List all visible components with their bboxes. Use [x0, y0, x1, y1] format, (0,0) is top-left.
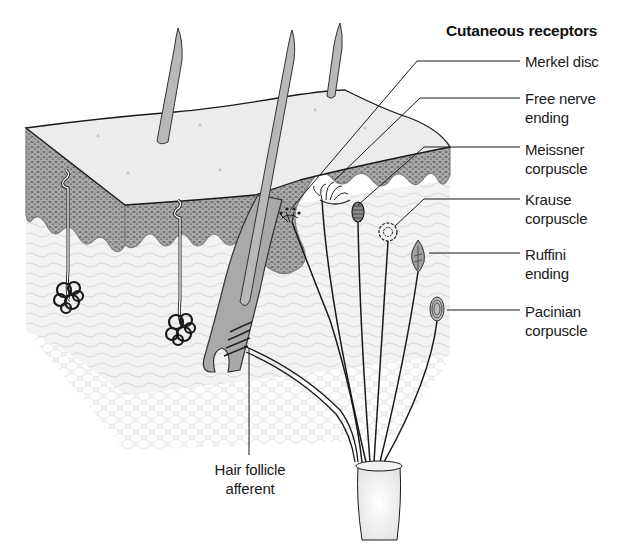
label-free-nerve-line2: ending — [525, 108, 596, 127]
krause-corpuscle — [379, 223, 397, 241]
nerve-bundle — [356, 461, 402, 540]
label-hair-follicle-line2: afferent — [206, 479, 294, 498]
label-meissner-line2: corpuscle — [525, 159, 587, 178]
label-merkel-disc: Merkel disc — [525, 52, 599, 71]
skin-receptor-diagram: Cutaneous receptors Merkel disc Free ner… — [0, 0, 633, 560]
pacinian-corpuscle — [430, 297, 444, 321]
label-krause-line1: Krause — [525, 190, 587, 209]
label-free-nerve-ending: Free nerve ending — [525, 89, 596, 127]
figure-title: Cutaneous receptors — [446, 22, 597, 40]
label-krause-line2: corpuscle — [525, 209, 587, 228]
label-ruffini-line1: Ruffini — [525, 245, 569, 264]
label-ruffini-line2: ending — [525, 264, 569, 283]
label-krause-corpuscle: Krause corpuscle — [525, 190, 587, 228]
label-pacinian-line2: corpuscle — [525, 321, 587, 340]
label-ruffini-ending: Ruffini ending — [525, 245, 569, 283]
label-pacinian-line1: Pacinian — [525, 302, 587, 321]
label-free-nerve-line1: Free nerve — [525, 89, 596, 108]
label-hair-follicle-afferent: Hair follicle afferent — [206, 460, 294, 498]
label-pacinian-corpuscle: Pacinian corpuscle — [525, 302, 587, 340]
label-meissner-corpuscle: Meissner corpuscle — [525, 140, 587, 178]
label-hair-follicle-line1: Hair follicle — [206, 460, 294, 479]
label-meissner-line1: Meissner — [525, 140, 587, 159]
label-merkel-line1: Merkel disc — [525, 52, 599, 71]
